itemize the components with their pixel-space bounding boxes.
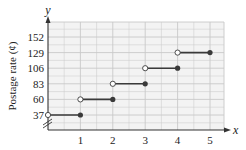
x-tick-label: 2 xyxy=(110,134,116,146)
y-axis-label: Postage rate (¢) xyxy=(6,41,19,110)
x-tick-label: 1 xyxy=(78,134,84,146)
y-axis-arrow-icon xyxy=(46,16,51,23)
closed-dot-icon xyxy=(110,97,115,102)
y-tick-label: 60 xyxy=(33,93,45,105)
x-tick-label: 4 xyxy=(175,134,181,146)
x-tick-label: 3 xyxy=(142,134,148,146)
open-dot-icon xyxy=(143,66,148,71)
y-tick-label: 37 xyxy=(33,109,45,121)
x-axis-arrow-icon xyxy=(224,128,231,133)
x-axis-letter: x xyxy=(232,123,239,137)
open-dot-icon xyxy=(45,112,50,117)
y-tick-label: 83 xyxy=(33,78,45,90)
y-tick-label: 152 xyxy=(28,31,45,43)
y-tick-label: 129 xyxy=(28,47,45,59)
x-tick-label: 5 xyxy=(207,134,213,146)
open-dot-icon xyxy=(78,97,83,102)
closed-dot-icon xyxy=(175,66,180,71)
closed-dot-icon xyxy=(143,81,148,86)
open-dot-icon xyxy=(110,81,115,86)
closed-dot-icon xyxy=(207,50,212,55)
y-tick-label: 106 xyxy=(28,62,45,74)
open-dot-icon xyxy=(175,50,180,55)
closed-dot-icon xyxy=(78,112,83,117)
y-axis-letter: y xyxy=(44,3,51,17)
step-chart: 12345376083106129152 Postage rate (¢) y … xyxy=(0,0,246,150)
